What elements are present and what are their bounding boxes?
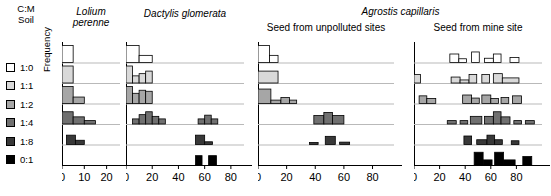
histogram-bar <box>513 96 522 104</box>
histogram-bar <box>484 58 493 62</box>
panel-4: Seed from mine site020406080 <box>414 0 551 196</box>
bar-series-1-0 <box>258 46 278 63</box>
bar-series-1-2 <box>419 95 521 104</box>
histogram-bar <box>472 98 480 103</box>
bar-series-1-8 <box>310 136 350 144</box>
histogram-bar <box>340 142 350 144</box>
bar-series-1-2 <box>126 87 152 104</box>
histogram-bar <box>84 121 95 124</box>
histogram-bar <box>139 115 146 124</box>
x-tick-label: 80 <box>225 171 237 183</box>
panel-title: Loliumperenne <box>62 6 120 28</box>
histogram-bar <box>73 117 84 124</box>
legend-items: 1:01:11:21:41:80:1 <box>6 58 33 169</box>
legend-swatch <box>6 155 15 164</box>
histogram-bar <box>451 77 460 83</box>
histogram-bar <box>484 116 493 124</box>
legend-header: C:M Soil <box>4 4 48 25</box>
histogram-bar <box>146 71 153 83</box>
legend-item: 1:0 <box>6 58 33 77</box>
histogram-bar <box>469 75 477 84</box>
legend-header-line2: Soil <box>4 15 48 26</box>
histogram-bar <box>205 115 212 124</box>
bar-series-1-0 <box>126 46 152 63</box>
x-tick-label: 40 <box>309 171 321 183</box>
legend-item-label: 1:4 <box>20 117 33 128</box>
histogram-bar <box>126 46 139 63</box>
histogram-bar <box>495 152 504 165</box>
x-tick-label: 40 <box>459 171 471 183</box>
legend-item: 1:2 <box>6 95 33 114</box>
histogram-bar <box>460 121 468 124</box>
legend-item: 0:1 <box>6 151 33 170</box>
histogram-bar <box>493 112 501 124</box>
histogram-bar <box>289 100 296 103</box>
legend-item: 1:1 <box>6 77 33 96</box>
bar-series-1-4 <box>314 112 344 124</box>
histogram-bar <box>73 97 84 103</box>
x-tick-label: 80 <box>510 171 522 183</box>
histogram-bar <box>470 116 482 124</box>
histogram-bar <box>281 98 290 104</box>
histogram-bar <box>159 119 166 124</box>
legend-swatch <box>6 63 15 72</box>
x-tick-label: 20 <box>100 171 112 183</box>
legend-item-label: 1:1 <box>20 80 33 91</box>
histogram-bar <box>510 57 519 62</box>
bar-series-1-4 <box>62 112 95 124</box>
histogram-bar <box>482 75 490 84</box>
histogram-bar <box>269 55 278 62</box>
histogram-bar <box>472 52 480 63</box>
x-tick-label: 80 <box>366 171 378 183</box>
histogram-bar <box>502 78 519 83</box>
histogram-bar <box>195 135 204 144</box>
histogram-bar <box>460 80 469 83</box>
histogram-bar <box>525 121 534 124</box>
histogram-bar <box>258 89 271 103</box>
legend-item: 1:4 <box>6 114 33 133</box>
bar-series-1-2 <box>62 87 84 104</box>
histogram-bar <box>493 54 501 63</box>
bar-series-1-1 <box>258 71 278 83</box>
histogram-bar <box>139 55 152 62</box>
bar-series-1-4 <box>447 112 534 124</box>
x-tick-label: 40 <box>172 171 184 183</box>
histogram-bar <box>493 74 502 83</box>
histogram-bar <box>62 112 73 124</box>
panel-subtitle: Seed from mine site <box>414 22 542 33</box>
x-tick-label: 20 <box>146 171 158 183</box>
histogram-bar <box>463 95 472 104</box>
bar-series-1-0 <box>450 52 519 63</box>
histogram-bar <box>126 66 133 83</box>
legend-swatch <box>6 118 15 127</box>
histogram-bar <box>477 140 487 145</box>
panel-3: Seed from unpolluted sites020406080 <box>258 0 408 196</box>
panel-1: Loliumperenne01020 <box>62 0 134 196</box>
histogram-bar <box>495 140 503 145</box>
x-tick-label: 0 <box>258 171 261 183</box>
histogram-bar <box>482 95 491 104</box>
histogram-bar <box>133 93 140 103</box>
histogram-bar <box>195 156 202 165</box>
x-tick-label: 0 <box>62 171 65 183</box>
panel-title-line: perenne <box>62 17 120 28</box>
histogram-bar <box>501 98 509 104</box>
histogram-bar <box>332 116 343 125</box>
bar-series-1-2 <box>258 89 297 103</box>
histogram-bar <box>414 75 420 84</box>
bar-series-1-4 <box>133 112 218 124</box>
histogram-bar <box>152 116 159 124</box>
histogram-bar <box>62 66 73 83</box>
plot-area: 020406080 <box>258 42 410 191</box>
histogram-bar <box>198 119 205 124</box>
panel-title-line: Lolium <box>62 6 120 17</box>
figure-root: C:M Soil 1:01:11:21:41:80:1 Frequency Ag… <box>0 0 551 196</box>
histogram-bar <box>427 98 436 103</box>
legend-swatch <box>6 137 15 146</box>
histogram-bar <box>514 121 522 124</box>
histogram-bar <box>310 142 319 144</box>
histogram-bar <box>450 54 459 63</box>
histogram-bar <box>139 90 146 103</box>
legend-swatch <box>6 81 15 90</box>
bar-series-0-1 <box>474 152 532 165</box>
